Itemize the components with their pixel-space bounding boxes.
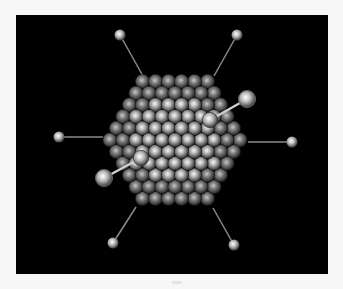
fiber-knob <box>239 91 256 108</box>
fiber-knob <box>54 132 65 143</box>
fiber-shaft <box>213 208 234 245</box>
fiber-knob <box>108 238 119 249</box>
fiber-base-penton <box>133 150 148 165</box>
fiber-shaft <box>120 35 143 76</box>
fiber-knob <box>229 240 240 251</box>
capsomere-sphere <box>155 133 169 147</box>
fiber-knob <box>287 137 298 148</box>
virus-capsid-illustration <box>0 0 343 289</box>
paper-smudge <box>172 281 182 284</box>
fiber-knob <box>232 30 243 41</box>
fiber-base-penton <box>202 112 217 127</box>
fiber-shaft <box>214 35 237 76</box>
fiber-knob <box>96 170 113 187</box>
capsid-spheres <box>103 74 247 205</box>
capsomere-sphere <box>168 133 182 147</box>
fiber-shaft <box>113 207 136 243</box>
fiber-knob <box>115 30 126 41</box>
capsomere-sphere <box>181 133 195 147</box>
